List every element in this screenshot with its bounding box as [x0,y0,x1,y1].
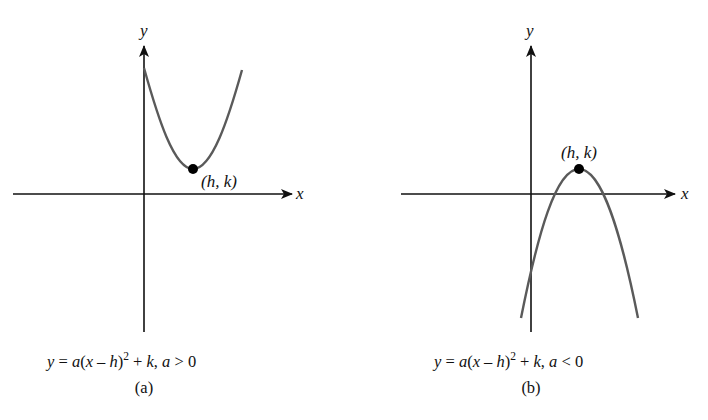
parabola-vertex-form-figure: x y (h, k) y = a(x – h)2 + k, a > 0 (a) … [0,0,708,420]
y-axis-label-b: y [524,21,534,40]
equation-a: y = a(x – h)2 + k, a > 0 [45,350,196,371]
panel-a: x y (h, k) y = a(x – h)2 + k, a > 0 (a) [13,21,304,397]
sublabel-b: (b) [521,378,540,397]
parabola-curve-b [521,169,638,318]
vertex-label-b: (h, k) [561,143,597,162]
vertex-label-a: (h, k) [201,172,237,191]
parabola-curve-a [144,68,242,169]
sublabel-a: (a) [135,378,153,397]
x-axis-label-b: x [680,184,689,203]
equation-b: y = a(x – h)2 + k, a < 0 [432,350,583,371]
x-axis-label-a: x [295,184,304,203]
panel-b: x y (h, k) y = a(x – h)2 + k, a < 0 (b) [401,21,689,397]
vertex-point-b [574,164,584,174]
vertex-point-a [188,164,198,174]
y-axis-label-a: y [138,21,148,40]
